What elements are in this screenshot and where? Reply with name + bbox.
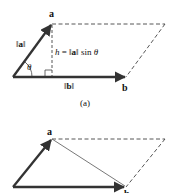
vector-b-label: b: [124, 188, 130, 193]
vector-b-label: b: [122, 82, 128, 93]
dashed-right-side: [126, 24, 165, 77]
vector-a-label: a: [49, 8, 54, 19]
dashed-right-side: [126, 139, 165, 187]
height-formula: h = ‖a‖ sin θ: [55, 47, 99, 57]
vector-a-arrow: [13, 140, 51, 187]
figure-a-caption: (a): [80, 98, 90, 108]
norm-b-label: ‖b‖: [64, 81, 74, 91]
figure-a: a b ‖a‖ θ h = ‖a‖ sin θ ‖b‖ (a): [13, 8, 165, 108]
diagonal-line: [52, 139, 125, 186]
angle-theta-label: θ: [27, 62, 32, 72]
figure-b: a b: [13, 126, 165, 193]
norm-a-label: ‖a‖: [16, 39, 26, 49]
vector-a-arrow: [13, 25, 51, 77]
vector-a-label: a: [47, 126, 52, 137]
parallelogram-diagram: a b ‖a‖ θ h = ‖a‖ sin θ ‖b‖ (a) a b: [0, 0, 174, 193]
